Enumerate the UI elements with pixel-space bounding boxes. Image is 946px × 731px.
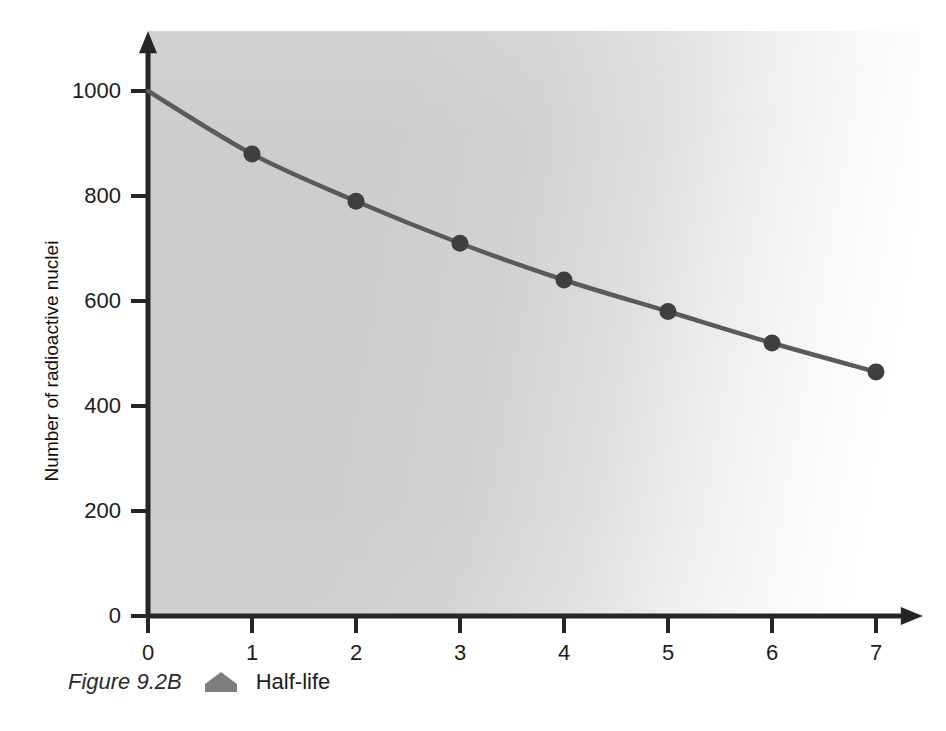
caption-figure-number: Figure 9.2B (68, 669, 182, 695)
tick-marks-group (131, 91, 876, 633)
data-point-marker (868, 363, 885, 380)
x-tick-label: 7 (856, 642, 896, 664)
data-markers-group (244, 146, 885, 381)
data-point-marker (556, 272, 573, 289)
data-line-half-life (148, 91, 876, 372)
x-tick-label: 2 (336, 642, 376, 664)
x-tick-label: 6 (752, 642, 792, 664)
x-tick-label: 4 (544, 642, 584, 664)
x-tick-label: 3 (440, 642, 480, 664)
caption-label: Half-life (256, 669, 331, 695)
figure-caption: Figure 9.2B Half-life (68, 665, 330, 699)
x-axis-arrowhead (901, 607, 923, 625)
x-tick-label: 1 (232, 642, 272, 664)
pentagon-marker-icon (204, 671, 238, 693)
data-point-marker (452, 235, 469, 252)
data-point-marker (764, 335, 781, 352)
data-point-marker (348, 193, 365, 210)
y-axis-arrowhead (139, 31, 157, 53)
plot-canvas (0, 0, 946, 731)
data-point-marker (660, 303, 677, 320)
x-tick-label: 5 (648, 642, 688, 664)
axes-group (139, 31, 923, 625)
x-tick-label: 0 (128, 642, 168, 664)
y-axis-title: Number of radioactive nuclei (41, 196, 63, 526)
y-tick-label: 0 (31, 605, 121, 627)
figure-container: 02004006008001000 01234567 Number of rad… (0, 0, 946, 731)
data-point-marker (244, 146, 261, 163)
y-tick-label: 1000 (31, 80, 121, 102)
data-series-group (148, 91, 876, 372)
